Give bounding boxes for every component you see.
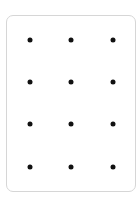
dot-r4-c3 xyxy=(111,165,116,170)
dot-r2-c1 xyxy=(28,80,33,85)
dot-r4-c1 xyxy=(28,165,33,170)
dot-r2-c3 xyxy=(111,80,116,85)
dot-r1-c1 xyxy=(28,38,33,43)
dot-r1-c2 xyxy=(69,38,74,43)
dot-r4-c2 xyxy=(69,165,74,170)
dot-r3-c1 xyxy=(28,122,33,127)
dot-r3-c3 xyxy=(111,122,116,127)
dot-r1-c3 xyxy=(111,38,116,43)
dot-r3-c2 xyxy=(69,122,74,127)
dot-r2-c2 xyxy=(69,80,74,85)
